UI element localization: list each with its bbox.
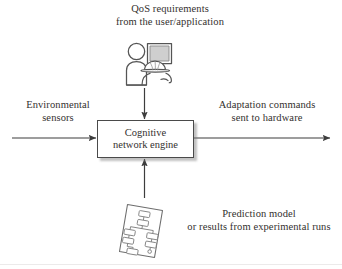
page-scan-rule bbox=[0, 264, 342, 265]
results-document-icon bbox=[120, 205, 163, 259]
engine-box-label: Cognitive network engine bbox=[113, 127, 178, 152]
engine-label-line2: network engine bbox=[113, 139, 178, 150]
cognitive-network-engine-box: Cognitive network engine bbox=[97, 120, 194, 158]
user-at-computer-icon bbox=[127, 43, 172, 85]
figure-canvas: QoS requirements from the user/applicati… bbox=[0, 0, 342, 269]
engine-label-line1: Cognitive bbox=[125, 127, 166, 138]
